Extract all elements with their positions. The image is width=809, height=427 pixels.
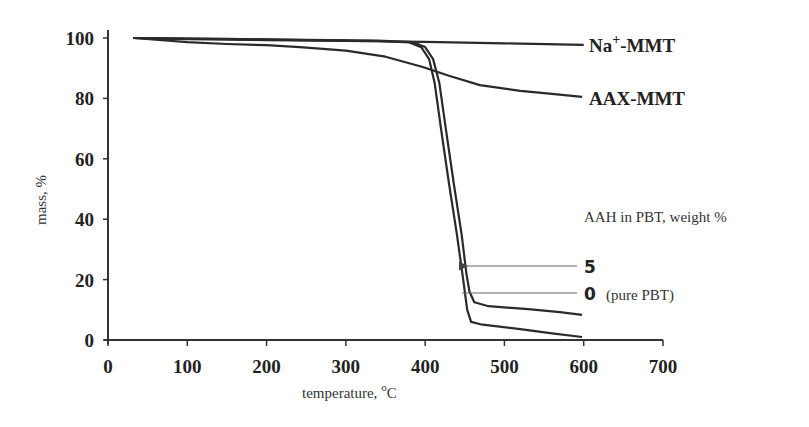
series-label-0: 0: [584, 284, 596, 304]
labels: Na+-MMTAAX-MMTAAH in PBT, weight %50(pur…: [462, 32, 727, 304]
y-tick-label: 60: [75, 149, 94, 170]
x-tick-label: 400: [411, 356, 440, 377]
x-tick-label: 700: [649, 356, 678, 377]
x-tick-label: 600: [569, 356, 598, 377]
y-tick-label: 40: [75, 209, 94, 230]
series-label-5: 5: [584, 257, 596, 277]
y-axis-title: mass, %: [33, 175, 49, 225]
x-tick-label: 500: [490, 356, 519, 377]
x-tick-label: 200: [252, 356, 281, 377]
legend-title: AAH in PBT, weight %: [584, 209, 727, 225]
tga-chart: 0100200300400500600700020406080100temper…: [0, 0, 809, 427]
x-tick-label: 100: [173, 356, 202, 377]
y-tick-label: 20: [75, 270, 94, 291]
x-tick-label: 300: [332, 356, 361, 377]
curve-aax-mmt: [133, 38, 582, 97]
series-label-0-note: (pure PBT): [606, 287, 674, 304]
y-tick-label: 0: [85, 330, 95, 351]
axes: 0100200300400500600700020406080100temper…: [33, 28, 677, 401]
y-tick-label: 80: [75, 88, 94, 109]
series-label-aax-mmt: AAX-MMT: [589, 88, 685, 109]
curve-5: [133, 38, 582, 337]
x-tick-label: 0: [103, 356, 113, 377]
y-tick-label: 100: [66, 28, 95, 49]
series-label-na-mmt: Na+-MMT: [589, 32, 675, 56]
curve-0-pure-pbt-: [133, 38, 582, 315]
curves: [133, 38, 583, 337]
x-axis-title: temperature, oC: [302, 381, 397, 401]
